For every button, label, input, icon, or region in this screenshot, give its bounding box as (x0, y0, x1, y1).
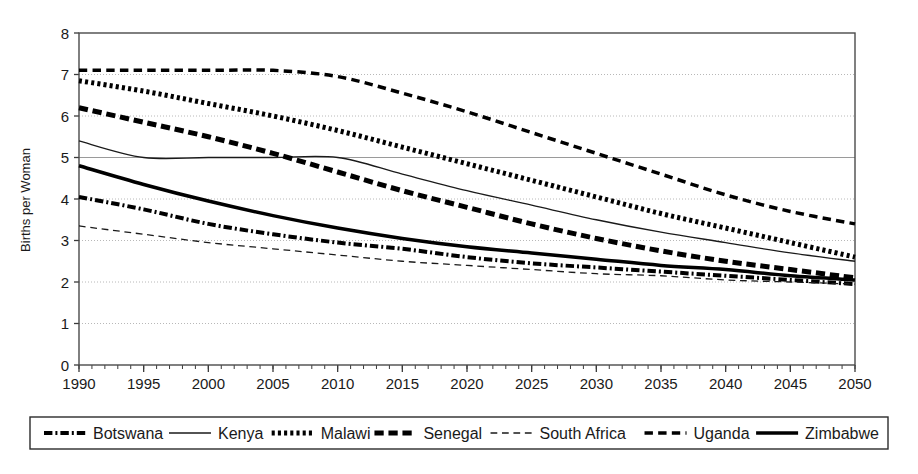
x-tick-label-2025: 2025 (515, 375, 548, 392)
x-tick-label-2005: 2005 (256, 375, 289, 392)
x-tick-label-2030: 2030 (580, 375, 613, 392)
y-tick-label-4: 4 (61, 191, 69, 208)
legend-label-uganda: Uganda (694, 425, 750, 442)
chart-figure: Births per Woman 012345678 1990199520002… (0, 0, 918, 474)
x-tick-label-2035: 2035 (644, 375, 677, 392)
y-axis-tick-labels: 012345678 (61, 25, 69, 374)
y-tick-label-2: 2 (61, 274, 69, 291)
y-tick-label-5: 5 (61, 149, 69, 166)
x-tick-label-2015: 2015 (386, 375, 419, 392)
legend-label-senegal: Senegal (423, 425, 482, 442)
legend-label-malawi: Malawi (321, 425, 371, 442)
y-tick-label-3: 3 (61, 232, 69, 249)
x-tick-label-1995: 1995 (127, 375, 160, 392)
legend-label-zimbabwe: Zimbabwe (805, 425, 879, 442)
y-tick-label-0: 0 (61, 357, 69, 374)
x-tick-label-1990: 1990 (62, 375, 95, 392)
y-tick-label-1: 1 (61, 315, 69, 332)
x-tick-label-2040: 2040 (709, 375, 742, 392)
x-tick-label-2020: 2020 (450, 375, 483, 392)
legend-label-botswana: Botswana (93, 425, 163, 442)
legend-label-kenya: Kenya (218, 425, 263, 442)
x-tick-label-2050: 2050 (838, 375, 871, 392)
legend-label-south-africa: South Africa (540, 425, 626, 442)
y-tick-label-7: 7 (61, 66, 69, 83)
fertility-line-chart: Births per Woman 012345678 1990199520002… (0, 0, 918, 474)
y-axis-title: Births per Woman (18, 148, 33, 252)
y-tick-label-8: 8 (61, 25, 69, 42)
x-tick-label-2000: 2000 (192, 375, 225, 392)
x-tick-label-2010: 2010 (321, 375, 354, 392)
y-tick-label-6: 6 (61, 108, 69, 125)
x-tick-label-2045: 2045 (774, 375, 807, 392)
